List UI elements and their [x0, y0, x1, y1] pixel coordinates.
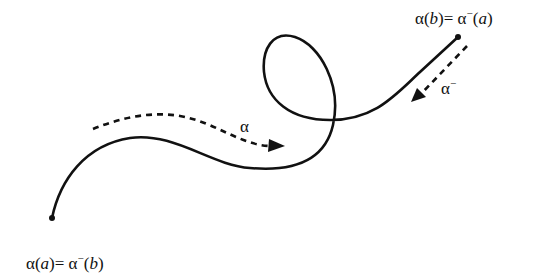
reverse-arrowhead-icon [411, 88, 426, 102]
curve-diagram: α(a)= α−(b) α(b)= α−(a) α α− [0, 0, 546, 278]
end-point-label: α(b)= α−(a) [415, 7, 493, 28]
curve-alpha [52, 36, 458, 218]
start-point-label: α(a)= α−(b) [26, 252, 104, 273]
start-point [49, 215, 55, 221]
end-point [455, 34, 461, 40]
forward-path-label: α [240, 117, 249, 136]
reverse-path-label: α− [441, 77, 456, 98]
forward-arrowhead-icon [268, 139, 285, 152]
